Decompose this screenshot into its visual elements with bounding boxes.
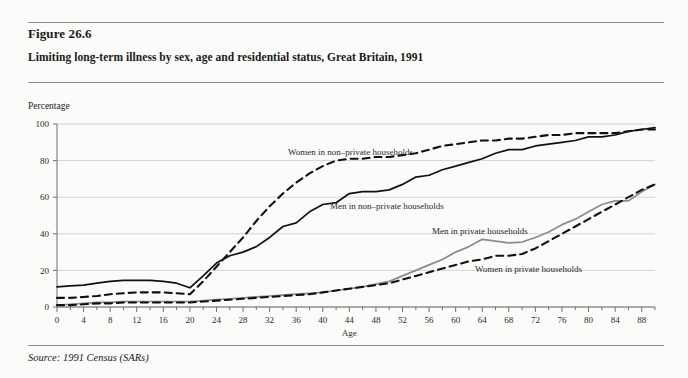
svg-text:20: 20: [40, 266, 50, 276]
svg-text:28: 28: [239, 315, 249, 325]
line-chart: 020406080100 048121620242832364044485256…: [0, 88, 688, 338]
svg-text:0: 0: [45, 302, 50, 312]
source-note: Source: 1991 Census (SARs): [28, 352, 149, 363]
divider-bottom: [28, 345, 664, 346]
figure-card: Figure 26.6 Limiting long-term illness b…: [0, 0, 688, 378]
series-annotation-3: Women in private households: [475, 264, 583, 274]
svg-text:60: 60: [451, 315, 461, 325]
divider-middle: [28, 82, 664, 83]
series-annotation-2: Men in private households: [432, 226, 528, 236]
svg-text:64: 64: [478, 315, 488, 325]
svg-text:60: 60: [40, 192, 50, 202]
svg-text:76: 76: [557, 315, 567, 325]
svg-text:40: 40: [318, 315, 328, 325]
svg-text:68: 68: [504, 315, 514, 325]
svg-text:24: 24: [212, 315, 222, 325]
svg-text:4: 4: [81, 315, 86, 325]
svg-text:84: 84: [611, 315, 621, 325]
svg-text:20: 20: [185, 315, 195, 325]
svg-text:36: 36: [292, 315, 302, 325]
svg-text:32: 32: [265, 315, 274, 325]
figure-title: Limiting long-term illness by sex, age a…: [28, 51, 423, 63]
x-axis-title: Age: [342, 328, 357, 338]
svg-text:44: 44: [345, 315, 355, 325]
svg-text:16: 16: [159, 315, 169, 325]
svg-text:80: 80: [584, 315, 594, 325]
svg-text:80: 80: [40, 156, 50, 166]
svg-text:100: 100: [36, 119, 50, 129]
series-annotations: Women in non–private householdsMen in no…: [288, 147, 583, 274]
svg-text:12: 12: [132, 315, 141, 325]
svg-text:0: 0: [55, 315, 60, 325]
figure-number: Figure 26.6: [28, 26, 92, 42]
svg-text:56: 56: [425, 315, 435, 325]
svg-text:72: 72: [531, 315, 540, 325]
y-axis-ticks: 020406080100: [36, 119, 58, 312]
series-annotation-0: Women in non–private households: [288, 147, 414, 157]
svg-text:88: 88: [637, 315, 647, 325]
divider-top: [28, 22, 664, 23]
series-annotation-1: Men in non–private households: [330, 201, 444, 211]
svg-text:8: 8: [108, 315, 113, 325]
svg-text:52: 52: [398, 315, 407, 325]
x-axis-ticks: 0481216202428323640444852566064687276808…: [55, 307, 655, 325]
svg-text:48: 48: [371, 315, 381, 325]
svg-text:40: 40: [40, 229, 50, 239]
